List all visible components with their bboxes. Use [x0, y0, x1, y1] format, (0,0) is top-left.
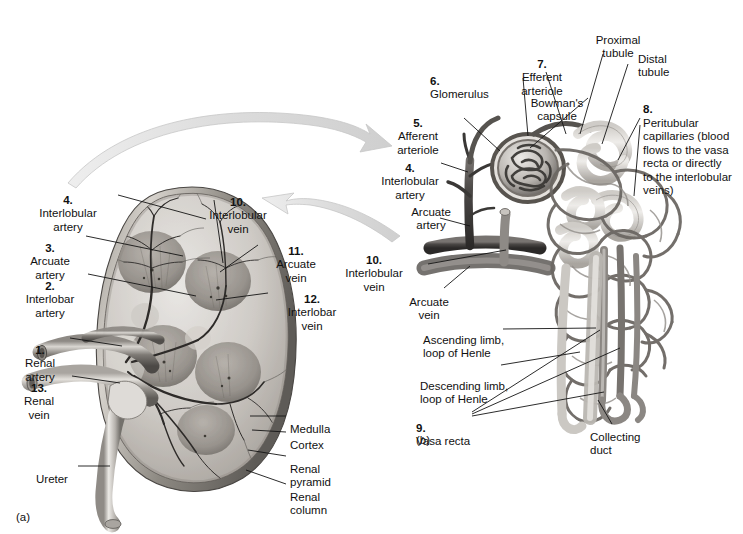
label-text: Distal tubule: [638, 53, 669, 79]
label-number: 12.: [304, 293, 320, 305]
label-text: Ureter: [36, 473, 68, 485]
label-number: 2.: [45, 280, 55, 292]
label-renal-column-a: Renal column: [290, 477, 327, 518]
label-text: Interlobar vein: [288, 306, 337, 332]
label-distal-tubule-b: Distal tubule: [638, 39, 669, 80]
label-number: 5.: [413, 117, 423, 129]
label-text: Renal vein: [24, 395, 54, 421]
label-ureter-a: Ureter: [36, 459, 68, 486]
label-text: Interlobar artery: [26, 293, 75, 319]
label-arcuate-artery-b: Arcuate artery: [396, 192, 466, 233]
label-interlobular-vein-a: 10. Interlobular vein: [186, 182, 290, 236]
label-number: 3.: [45, 242, 55, 254]
arrow-to-panel-b: [68, 112, 392, 188]
label-number: 6.: [430, 75, 440, 87]
label-arcuate-vein-b: Arcuate vein: [394, 282, 464, 323]
label-cortex-a: Cortex: [290, 425, 324, 452]
label-text: Descending limb, loop of Henle: [420, 380, 508, 406]
label-bowmans-capsule-b: Bowman's capsule: [519, 83, 595, 124]
label-text: Proximal tubule: [596, 34, 641, 60]
label-text: Ascending limb, loop of Henle: [423, 334, 504, 360]
label-text: Glomerulus: [430, 88, 489, 100]
label-collecting-duct-b: Collecting duct: [590, 417, 641, 458]
label-number: 9.: [416, 422, 426, 434]
label-renal-vein-a: 13. Renal vein: [4, 368, 74, 422]
label-number: 8.: [643, 103, 653, 115]
label-text: Peritubular capillaries (blood flows to …: [643, 117, 732, 197]
panel-tag-b: (b): [416, 434, 430, 446]
panel-tag-a: (a): [16, 511, 30, 523]
label-interlobar-artery-a: 2. Interlobar artery: [8, 266, 92, 320]
label-interlobular-artery-a: 4. Interlobular artery: [18, 180, 118, 234]
label-text: Renal column: [290, 491, 327, 517]
label-peritubular-capillaries-b: 8. Peritubular capillaries (blood flows …: [630, 76, 743, 211]
label-ascending-limb-b: Ascending limb, loop of Henle: [423, 320, 504, 361]
label-number: 7.: [537, 58, 547, 70]
anatomy-figure: 4. Interlobular artery 3. Arcuate artery…: [0, 0, 743, 534]
label-arcuate-vein-a: 11. Arcuate vein: [258, 231, 334, 285]
label-descending-limb-b: Descending limb, loop of Henle: [420, 366, 508, 407]
label-number: 4.: [63, 194, 73, 206]
label-glomerulus-b: 6. Glomerulus: [430, 61, 489, 102]
label-number: 13.: [31, 382, 47, 394]
label-number: 10.: [230, 196, 246, 208]
label-text: Collecting duct: [590, 431, 641, 457]
label-text: Bowman's capsule: [531, 97, 584, 123]
label-text: Arcuate vein: [409, 296, 449, 322]
label-number: 4.: [405, 162, 415, 174]
label-text: Arcuate artery: [411, 206, 451, 232]
label-number: 11.: [288, 245, 303, 257]
label-number: 1.: [35, 344, 45, 356]
label-number: 10.: [366, 254, 382, 266]
